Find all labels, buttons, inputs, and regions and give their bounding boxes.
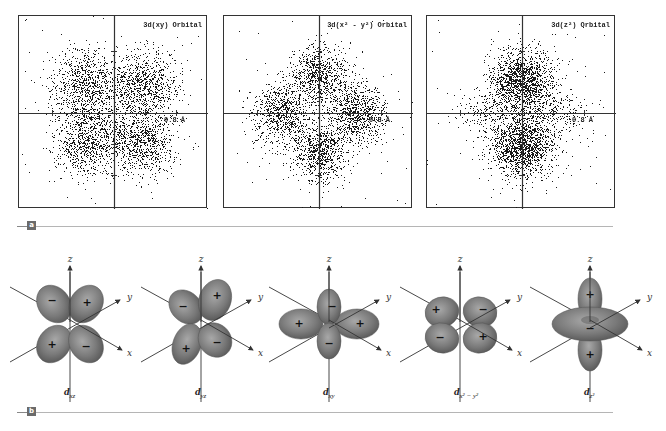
orbital-shape-dxz: −++− z y x	[10, 252, 135, 402]
svg-text:+: +	[355, 317, 364, 330]
tick-label: 0.8 Å	[164, 116, 185, 124]
svg-text:−: −	[212, 336, 221, 349]
orbital-label: dz²	[584, 385, 594, 400]
plot-title: 3d(xy) Orbital	[143, 21, 202, 29]
orbital-label: dxy	[323, 385, 335, 400]
svg-text:−: −	[324, 337, 333, 350]
svg-text:+: +	[585, 348, 594, 361]
orbital-shape-dyz: −++− z y x	[141, 252, 266, 402]
panel-a-separator-lead	[17, 226, 27, 227]
orbital-label-subscript: yz	[201, 392, 207, 400]
tick-label: 0.8 Å	[572, 116, 593, 124]
svg-text:y: y	[126, 292, 133, 302]
svg-text:y: y	[516, 292, 523, 302]
svg-text:y: y	[257, 292, 264, 302]
orbital-label: dyz	[195, 385, 206, 400]
orbital-label-subscript: xz	[70, 392, 76, 400]
svg-text:+: +	[212, 289, 221, 302]
svg-text:+: +	[47, 338, 56, 351]
orbital-shape-dxy: +−+− z y x	[269, 252, 394, 402]
svg-text:−: −	[478, 303, 487, 316]
scatter-plot-2: 3d(x² - y²) Orbital0.8 Å	[223, 15, 412, 208]
scatter-plot-1: 3d(xy) Orbital0.8 Å	[18, 15, 207, 208]
orbital-dxz: −++− z y x	[10, 252, 135, 402]
svg-text:+: +	[82, 296, 91, 309]
panel-b-separator-lead	[17, 412, 27, 413]
svg-text:−: −	[81, 340, 90, 353]
svg-text:+: +	[478, 330, 487, 343]
svg-text:x: x	[386, 348, 391, 358]
svg-text:z: z	[457, 254, 463, 264]
svg-text:+: +	[181, 342, 190, 355]
svg-text:z: z	[587, 254, 593, 264]
orbital-dz2: +−+ z y x	[530, 252, 655, 402]
orbital-label-subscript: xy	[329, 392, 335, 400]
svg-text:+: +	[431, 303, 440, 316]
scatter-dots	[427, 16, 616, 209]
orbital-shape-dz2: +−+ z y x	[530, 252, 655, 402]
panel-b-separator	[36, 412, 613, 413]
plot-title: 3d(z²) Orbital	[551, 21, 610, 29]
orbital-label-subscript: x² − y²	[460, 392, 479, 400]
scatter-plot-3: 3d(z²) Orbital0.8 Å	[426, 15, 615, 208]
svg-text:−: −	[435, 331, 444, 344]
svg-text:z: z	[198, 254, 204, 264]
svg-text:y: y	[385, 292, 392, 302]
panel-b-badge: b	[27, 407, 36, 416]
svg-text:−: −	[178, 300, 187, 313]
svg-text:x: x	[647, 348, 652, 358]
panel-a-separator	[36, 226, 613, 227]
orbital-label-subscript: z²	[590, 392, 595, 400]
orbital-shape-dx2-y2: +−−+ z y x	[400, 252, 525, 402]
orbital-dyz: −++− z y x	[141, 252, 266, 402]
orbital-label: dxz	[64, 385, 75, 400]
svg-text:x: x	[127, 348, 132, 358]
svg-text:x: x	[258, 348, 263, 358]
svg-text:+: +	[294, 317, 303, 330]
plot-title: 3d(x² - y²) Orbital	[327, 21, 407, 29]
panel-a-badge: a	[27, 221, 36, 230]
svg-text:y: y	[646, 292, 653, 302]
scatter-dots	[224, 16, 413, 209]
svg-text:x: x	[517, 348, 522, 358]
svg-text:−: −	[585, 322, 594, 335]
orbital-dx2-y2: +−−+ z y x	[400, 252, 525, 402]
orbital-label: dx² − y²	[454, 385, 478, 400]
svg-text:z: z	[67, 254, 73, 264]
scatter-dots	[19, 16, 208, 209]
svg-text:z: z	[326, 254, 332, 264]
svg-text:−: −	[47, 294, 56, 307]
tick-label: 0.8 Å	[369, 116, 390, 124]
orbital-dxy: +−+− z y x	[269, 252, 394, 402]
